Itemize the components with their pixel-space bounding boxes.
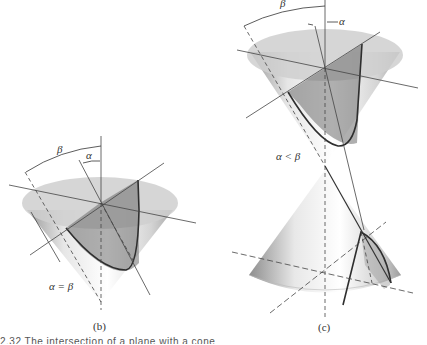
panel-label-c: (c) [318,321,331,334]
beta-label-b: β [56,143,63,155]
panel-b: β α α = β (b) [9,136,196,333]
panel-label-b: (b) [93,320,106,333]
alpha-label-c: α [339,15,345,27]
beta-label-c: β [279,0,286,9]
beta-arc-c [244,6,325,26]
figure-caption: 2.32 The intersection of a plane with a … [0,336,427,345]
conic-sections-figure: β α α = β (b) β α α < β (c) [0,0,427,345]
alpha-label-b: α [86,149,92,161]
relation-label-b: α = β [49,280,74,292]
panel-c: β α α < β (c) [232,0,418,334]
relation-label-c: α < β [276,150,301,162]
alpha-arc-b [83,161,100,163]
